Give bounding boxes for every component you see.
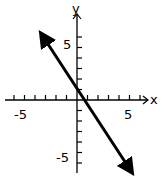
coordinate-plane: x y -5 5 5 -5 xyxy=(0,0,165,178)
y-tick-label-neg5: -5 xyxy=(56,150,69,165)
x-axis-label: x xyxy=(150,92,158,107)
x-tick-label-neg5: -5 xyxy=(14,107,27,122)
y-tick-label-5: 5 xyxy=(63,37,71,52)
y-axis-label: y xyxy=(72,1,80,16)
x-tick-label-5: 5 xyxy=(124,107,132,122)
